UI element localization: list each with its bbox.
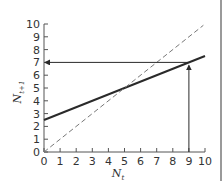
x-tick-label: 0 bbox=[41, 155, 48, 168]
x-tick-label: 1 bbox=[57, 155, 64, 168]
y-tick-label: 3 bbox=[33, 108, 40, 121]
y-tick-label: 8 bbox=[33, 44, 40, 57]
chart: 012345678910 012345678910 Nt Nt+1 bbox=[0, 0, 224, 181]
y-tick-label: 9 bbox=[33, 31, 40, 44]
x-tick-label: 8 bbox=[169, 155, 176, 168]
x-tick-label: 9 bbox=[185, 155, 192, 168]
panel-border bbox=[220, 0, 222, 181]
x-tick-label: 6 bbox=[137, 155, 144, 168]
y-tick-label: 2 bbox=[33, 120, 40, 133]
y-tick-label: 10 bbox=[26, 18, 40, 31]
x-tick-label: 10 bbox=[198, 155, 212, 168]
y-ticks: 012345678910 bbox=[26, 18, 48, 159]
x-axis-title: Nt bbox=[111, 167, 125, 181]
x-tick-label: 2 bbox=[73, 155, 80, 168]
y-tick-label: 6 bbox=[33, 69, 40, 82]
y-tick-label: 1 bbox=[33, 133, 40, 146]
y-tick-label: 0 bbox=[33, 146, 40, 159]
x-tick-label: 3 bbox=[89, 155, 96, 168]
x-ticks: 012345678910 bbox=[41, 148, 213, 168]
x-tick-label: 7 bbox=[153, 155, 160, 168]
x-tick-label: 5 bbox=[121, 155, 128, 168]
annotations bbox=[45, 62, 189, 152]
recruitment-line bbox=[44, 56, 205, 120]
y-tick-label: 5 bbox=[33, 82, 40, 95]
y-tick-label: 7 bbox=[33, 56, 40, 69]
series bbox=[44, 25, 205, 152]
y-tick-label: 4 bbox=[33, 95, 40, 108]
y-axis-title: Nt+1 bbox=[11, 81, 26, 105]
